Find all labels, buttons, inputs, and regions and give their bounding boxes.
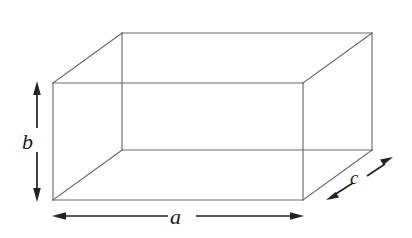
dimension-b-arrowhead-bottom bbox=[33, 188, 41, 202]
rectangular-box bbox=[53, 33, 372, 200]
box-edge-depth-bottom-left bbox=[53, 150, 122, 200]
dimension-c-shaft-upper bbox=[367, 164, 385, 176]
box-edge-depth-top-left bbox=[53, 33, 122, 83]
dimension-arrow-c bbox=[326, 157, 393, 200]
dimension-label-c: c bbox=[350, 168, 358, 187]
dimension-a-arrowhead-left bbox=[52, 212, 66, 220]
dimension-arrow-b bbox=[33, 81, 41, 202]
dimension-label-b: b bbox=[22, 131, 33, 153]
dimension-a-arrowhead-right bbox=[290, 212, 304, 220]
dimension-label-a: a bbox=[170, 206, 181, 228]
dimension-c-arrowhead-upper-right bbox=[380, 157, 393, 165]
figure-root: a b c bbox=[0, 0, 412, 238]
box-edge-depth-top-right bbox=[303, 33, 372, 83]
dimension-b-arrowhead-top bbox=[33, 81, 41, 95]
box-diagram-svg bbox=[0, 0, 412, 238]
